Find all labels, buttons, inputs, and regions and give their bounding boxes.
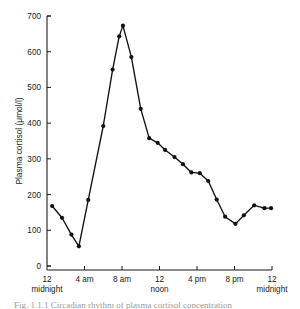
data-point	[117, 34, 121, 38]
y-tick-label: 500	[27, 83, 41, 92]
y-axis-title: Plasma cortisol (μmol/l)	[14, 97, 24, 184]
data-point	[198, 171, 202, 175]
y-tick-label: 0	[36, 262, 41, 271]
x-tick-sublabel: midnight	[257, 285, 289, 294]
x-tick-sublabel: midnight	[32, 285, 64, 294]
x-tick-label: 8 am	[113, 275, 131, 284]
series-polyline	[52, 26, 271, 247]
data-point	[147, 136, 151, 140]
y-axis: 0100200300400500600700	[27, 12, 51, 271]
y-axis-title-text: Plasma cortisol (μmol/l)	[14, 97, 24, 184]
y-tick-label: 600	[27, 48, 41, 57]
y-tick-label: 200	[27, 191, 41, 200]
data-point	[156, 141, 160, 145]
data-point	[262, 206, 266, 210]
data-point	[242, 213, 246, 217]
data-point	[189, 170, 193, 174]
data-point	[181, 162, 185, 166]
figure-caption: Fig. 1.1.1 Circadian rhythm of plasma co…	[14, 300, 294, 309]
data-point	[50, 204, 54, 208]
x-tick-label: 4 pm	[188, 275, 206, 284]
x-tick-label: 4 am	[75, 275, 93, 284]
data-point	[233, 222, 237, 226]
data-point	[215, 197, 219, 201]
data-point	[172, 155, 176, 159]
data-point	[269, 206, 273, 210]
x-tick-sublabel: noon	[150, 285, 169, 294]
data-point	[101, 124, 105, 128]
data-point	[60, 216, 64, 220]
data-point	[252, 203, 256, 207]
cortisol-line-chart: 0100200300400500600700 12midnight4 am8 a…	[0, 0, 300, 309]
figure-container: 0100200300400500600700 12midnight4 am8 a…	[0, 0, 300, 309]
data-point	[111, 67, 115, 71]
data-series	[52, 26, 271, 247]
y-tick-label: 100	[27, 226, 41, 235]
y-tick-label: 300	[27, 155, 41, 164]
x-tick-label: 12	[267, 275, 277, 284]
data-point	[69, 232, 73, 236]
x-axis: 12midnight4 am8 am12noon4 pm8 pm12midnig…	[32, 266, 289, 294]
data-point	[163, 148, 167, 152]
y-tick-label: 700	[27, 12, 41, 21]
x-tick-label: 12	[42, 275, 52, 284]
data-point	[77, 244, 81, 248]
data-point	[129, 55, 133, 59]
y-tick-label: 400	[27, 119, 41, 128]
data-point	[223, 215, 227, 219]
data-point	[86, 198, 90, 202]
data-point	[206, 179, 210, 183]
data-point	[121, 24, 125, 28]
x-tick-label: 8 pm	[225, 275, 243, 284]
data-point-markers	[50, 24, 273, 249]
x-tick-label: 12	[155, 275, 165, 284]
data-point	[139, 107, 143, 111]
